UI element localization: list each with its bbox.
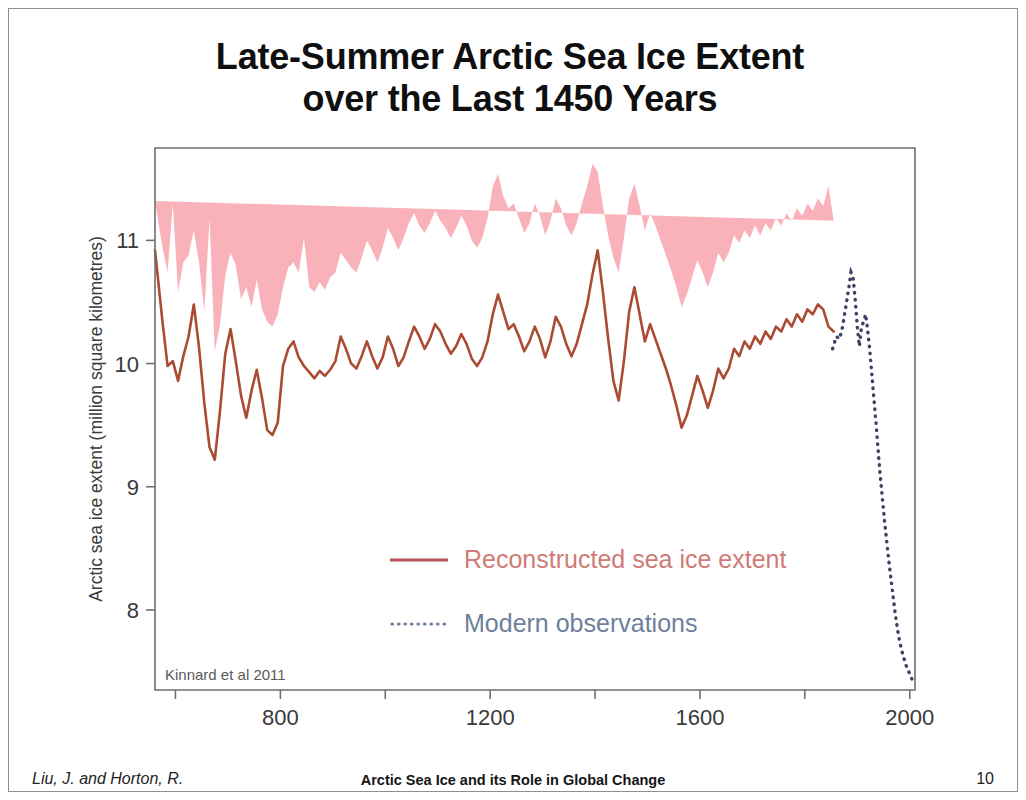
x-tick-label: 800	[262, 705, 299, 730]
y-tick-label: 10	[115, 352, 139, 377]
y-tick-label: 8	[127, 598, 139, 623]
slide-footer: Liu, J. and Horton, R. Arctic Sea Ice an…	[10, 762, 1016, 796]
reconstruction-line	[155, 250, 834, 459]
chart-figure: 800120016002000 891011 Year Arctic sea i…	[60, 140, 960, 750]
y-axis-ticks: 891011	[115, 228, 155, 623]
in-plot-source-credit: Kinnard et al 2011	[165, 666, 286, 683]
footer-talk-title: Arctic Sea Ice and its Role in Global Ch…	[10, 772, 1016, 788]
title-line-1: Late-Summer Arctic Sea Ice Extent	[60, 36, 960, 78]
chart-svg: 800120016002000 891011 Year Arctic sea i…	[60, 140, 960, 750]
slide-canvas: Late-Summer Arctic Sea Ice Extent over t…	[0, 0, 1026, 800]
footer-page-number: 10	[976, 770, 994, 788]
x-axis-ticks: 800120016002000	[175, 690, 934, 730]
chart-legend: Reconstructed sea ice extent Modern obse…	[390, 545, 786, 637]
x-tick-label: 1200	[466, 705, 515, 730]
x-tick-label: 2000	[885, 705, 934, 730]
y-tick-label: 9	[127, 475, 139, 500]
title-line-2: over the Last 1450 Years	[60, 78, 960, 120]
legend-label-reconstruction: Reconstructed sea ice extent	[464, 545, 786, 573]
page-title: Late-Summer Arctic Sea Ice Extent over t…	[60, 36, 960, 120]
x-axis-title: Year	[514, 746, 556, 750]
uncertainty-band	[155, 164, 834, 351]
legend-label-modern: Modern observations	[464, 609, 697, 637]
y-tick-label: 11	[116, 228, 139, 253]
modern-observations-line	[833, 272, 912, 678]
y-axis-title: Arctic sea ice extent (million square ki…	[86, 236, 106, 602]
right-edge-mask	[1018, 0, 1026, 800]
x-tick-label: 1600	[675, 705, 724, 730]
